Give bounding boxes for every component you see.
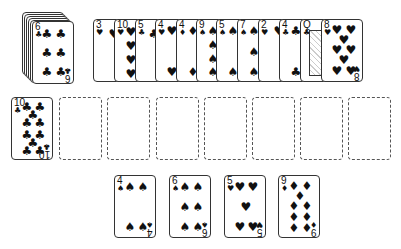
heart-icon: ♥	[234, 181, 246, 193]
bottom-card[interactable]: 4 ♠ ♠ ♠ ♠ ♠ ♠ 4	[114, 175, 156, 238]
spade-icon: ♠	[179, 201, 191, 213]
card-rank: 9	[311, 227, 317, 237]
empty-slot[interactable]	[204, 97, 247, 160]
empty-slot[interactable]	[156, 97, 199, 160]
club-icon: ♣	[41, 47, 53, 59]
card-rank: 6	[202, 227, 208, 237]
waste-top-card[interactable]: 8 ♥ ♥ ♥ ♥ ♥ ♥ ♥ ♥ ♥ ♥ 8	[321, 19, 363, 82]
diamond-icon: ♦	[179, 29, 186, 37]
club-icon: ♣	[282, 29, 289, 37]
card-rank: 6	[65, 73, 71, 83]
heart-icon: ♥	[261, 29, 268, 37]
spade-icon: ♠	[192, 181, 204, 193]
card-rank: 5	[257, 227, 263, 237]
spade-icon: ♠	[124, 221, 136, 233]
row2-card[interactable]: 10 ♣ ♣ ♣ ♣ ♣ ♣ ♣ ♣ ♣ ♣ ♣ ♣ 10	[11, 97, 53, 160]
heart-icon: ♥	[331, 65, 343, 77]
spade-icon: ♠	[124, 181, 136, 193]
empty-slot[interactable]	[252, 97, 295, 160]
club-icon: ♣	[138, 29, 145, 37]
card-rank: 8	[354, 71, 360, 81]
stock-pile[interactable]: 6 ♣ ♣ ♣ ♣ ♣ ♣ ♣ ♣ 6	[20, 10, 80, 90]
empty-slot[interactable]	[300, 97, 343, 160]
heart-icon: ♥	[96, 29, 103, 37]
heart-icon: ♥	[158, 29, 165, 37]
spade-icon: ♠	[199, 29, 206, 37]
club-icon: ♣	[55, 47, 67, 59]
club-icon: ♣	[41, 28, 53, 40]
club-icon: ♣	[21, 145, 33, 157]
card-rank: 10	[39, 149, 50, 159]
bottom-card[interactable]: 9 ♦ ♦ ♦ ♦ ♦ ♦ ♦ ♦ ♦ ♦ ♦ 9	[278, 175, 320, 238]
spade-icon: ♠	[137, 181, 149, 193]
spade-icon: ♠	[219, 29, 226, 37]
empty-slot[interactable]	[107, 97, 150, 160]
empty-slot[interactable]	[59, 97, 102, 160]
heart-icon: ♥	[234, 221, 246, 233]
club-icon: ♣	[41, 66, 53, 78]
bottom-card[interactable]: 6 ♠ ♠ ♠ ♠ ♠ ♠ ♠ ♠ 6	[169, 175, 211, 238]
diamond-icon: ♦	[288, 222, 300, 234]
heart-icon: ♥	[247, 181, 259, 193]
card-rank: 4	[147, 227, 153, 237]
spade-icon: ♠	[179, 181, 191, 193]
stock-top-card[interactable]: 6 ♣ ♣ ♣ ♣ ♣ ♣ ♣ ♣ 6	[32, 21, 74, 84]
spade-icon: ♠	[192, 201, 204, 213]
spade-icon: ♠	[179, 221, 191, 233]
bottom-card[interactable]: 5 ♥ ♥ ♥ ♥ ♥ ♥ ♥ 5	[224, 175, 266, 238]
club-icon: ♣	[55, 28, 67, 40]
heart-icon: ♥	[117, 29, 124, 37]
empty-slot[interactable]	[348, 97, 391, 160]
heart-icon: ♥	[240, 201, 252, 213]
spade-icon: ♠	[240, 29, 247, 37]
